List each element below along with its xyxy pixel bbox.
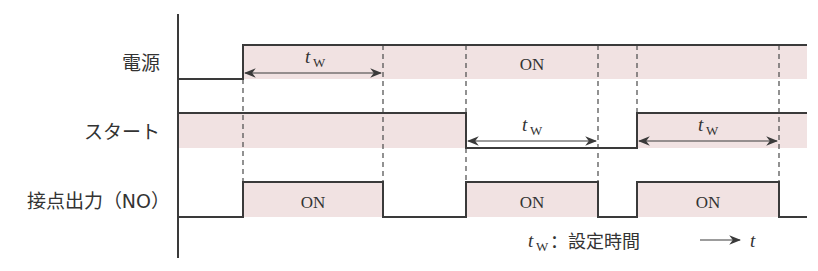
output-on-label-2: ON (520, 193, 545, 212)
svg-text:W: W (706, 123, 719, 138)
svg-text:t: t (305, 46, 311, 67)
output-on-label-3: ON (696, 193, 721, 212)
legend: t W ：設定時間 t (528, 230, 756, 254)
timing-diagram: 電源 スタート 接点出力（NO） ON ON ON ON t W t W t W… (0, 0, 818, 271)
row-label-start: スタート (84, 121, 160, 143)
time-label: t (750, 230, 756, 251)
tw-label-start: t W (522, 114, 543, 138)
svg-text:t: t (698, 114, 704, 135)
row-label-contact-output: 接点出力（NO） (27, 190, 170, 212)
svg-text:W: W (536, 239, 549, 254)
legend-description: ：設定時間 (550, 231, 640, 252)
output-on-label-1: ON (301, 193, 326, 212)
svg-text:W: W (530, 123, 543, 138)
start-high-fill-2 (637, 113, 807, 148)
row-label-power: 電源 (122, 52, 160, 74)
svg-text:t: t (522, 114, 528, 135)
svg-text:t: t (528, 230, 534, 251)
start-high-fill-1 (178, 113, 466, 148)
svg-text:W: W (313, 55, 326, 70)
power-on-label: ON (520, 55, 545, 74)
